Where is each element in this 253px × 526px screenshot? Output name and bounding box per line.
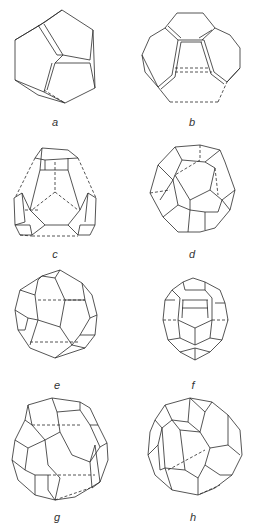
visible-edge: [25, 318, 28, 330]
visible-edge: [15, 225, 20, 235]
visible-edge: [180, 430, 185, 470]
visible-edge: [218, 200, 222, 212]
visible-edge: [205, 282, 220, 290]
visible-edge: [15, 310, 18, 330]
visible-edge: [57, 410, 80, 412]
visible-edge: [12, 440, 15, 460]
visible-edge: [45, 158, 78, 160]
visible-edge: [90, 225, 95, 235]
hidden-edge: [55, 488, 90, 500]
visible-edge: [165, 28, 178, 40]
visible-edge: [215, 210, 230, 228]
visible-edge: [95, 315, 97, 335]
panel-label-c: c: [52, 249, 58, 260]
visible-edge: [155, 420, 162, 428]
polyhedron-e: [15, 270, 97, 358]
visible-edge: [165, 13, 177, 28]
visible-edge: [80, 318, 90, 335]
visible-edge: [22, 193, 25, 222]
visible-edge: [20, 290, 35, 295]
visible-edge: [30, 320, 38, 345]
visible-edge: [207, 300, 208, 318]
visible-edge: [203, 13, 215, 28]
visible-edge: [163, 205, 178, 217]
panel-label-f: f: [191, 380, 194, 391]
visible-edge: [92, 295, 97, 315]
visible-edge: [205, 465, 220, 475]
visible-edge: [15, 80, 44, 92]
visible-edge: [163, 217, 178, 232]
visible-edge: [35, 158, 45, 160]
visible-edge: [227, 68, 240, 82]
visible-edge: [35, 295, 38, 320]
polyhedron-a: [15, 10, 95, 103]
visible-edge: [158, 428, 162, 445]
visible-edge: [30, 170, 40, 210]
visible-edge: [168, 340, 180, 352]
visible-edge: [162, 420, 172, 428]
visible-edge: [90, 315, 97, 318]
visible-edge: [172, 420, 180, 430]
visible-edge: [35, 280, 38, 295]
visible-edge: [12, 460, 18, 480]
visible-edge: [72, 345, 85, 348]
visible-edge: [78, 225, 80, 235]
visible-edge: [28, 405, 32, 425]
visible-edge: [15, 22, 45, 40]
visible-edge: [55, 345, 72, 358]
visible-edge: [92, 482, 100, 488]
polyhedron-g: [12, 398, 108, 500]
visible-edge: [173, 180, 178, 205]
visible-edge: [30, 348, 55, 358]
visible-edge: [148, 432, 150, 455]
visible-edge: [210, 338, 222, 340]
visible-edge: [185, 470, 198, 478]
visible-edge: [60, 270, 82, 283]
visible-edge: [168, 26, 181, 38]
visible-edge: [12, 460, 25, 470]
visible-edge: [205, 290, 212, 298]
visible-edge: [188, 398, 190, 422]
hidden-edge: [168, 450, 205, 470]
visible-edge: [215, 28, 230, 35]
polyhedron-c: [14, 148, 96, 236]
visible-edge: [15, 310, 28, 318]
visible-edge: [148, 445, 158, 455]
visible-edge: [100, 443, 107, 447]
visible-edge: [193, 278, 205, 282]
visible-edge: [222, 200, 230, 210]
visible-edge: [148, 455, 155, 475]
visible-edge: [183, 282, 185, 290]
visible-edge: [178, 298, 180, 320]
visible-edge: [155, 405, 165, 420]
visible-edge: [52, 398, 80, 402]
visible-edge: [165, 398, 190, 405]
visible-edge: [150, 165, 158, 193]
hidden-edge: [32, 192, 55, 210]
visible-edge: [48, 465, 60, 478]
visible-edge: [28, 398, 52, 405]
visible-edge: [90, 425, 100, 447]
visible-edge: [42, 270, 60, 276]
visible-edge: [190, 190, 210, 200]
visible-edge: [198, 465, 205, 478]
visible-edge: [107, 443, 108, 460]
visible-edge: [158, 165, 173, 180]
panel-label-b: b: [189, 117, 195, 128]
visible-edge: [182, 160, 205, 162]
visible-edge: [195, 352, 210, 360]
hidden-edge: [15, 158, 35, 198]
visible-edge: [202, 28, 215, 40]
panel-label-h: h: [190, 512, 196, 523]
visible-edge: [45, 440, 48, 465]
visible-edge: [220, 150, 225, 162]
visible-edge: [28, 440, 45, 448]
visible-edge: [150, 28, 165, 37]
visible-edge: [188, 422, 200, 432]
visible-edge: [212, 402, 228, 415]
panel-label-g: g: [54, 512, 60, 523]
polyhedron-h: [148, 398, 242, 495]
hidden-edge: [150, 190, 170, 193]
